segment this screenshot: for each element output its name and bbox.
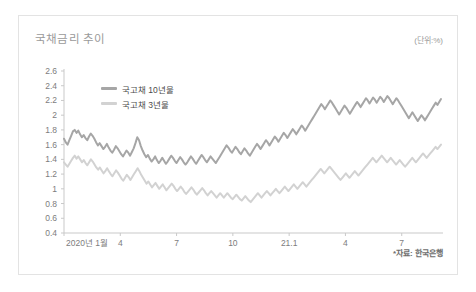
y-axis-tick-label: 2.4 xyxy=(45,81,57,91)
y-axis-tick-label: 2.6 xyxy=(45,66,57,76)
y-axis-tick-label: 0.6 xyxy=(45,213,57,223)
chart-legend: 국고채 10년물 국고채 3년물 xyxy=(101,83,174,109)
line-chart: 2.62.42.221.81.61.41.210.80.60.42020년 1월… xyxy=(19,16,459,276)
x-axis-tick-label: 21.1 xyxy=(281,238,298,248)
x-axis-tick-label: 7 xyxy=(174,238,179,248)
legend-item-10y: 국고채 10년물 xyxy=(101,83,174,94)
y-axis-tick-label: 0.8 xyxy=(45,199,57,209)
y-axis-tick-label: 1.8 xyxy=(45,125,57,135)
source-note: *자료: 한국은행 xyxy=(393,247,443,258)
legend-item-3y: 국고채 3년물 xyxy=(101,98,174,109)
y-axis-tick-label: 1.4 xyxy=(45,154,57,164)
y-axis-tick-label: 1 xyxy=(52,184,57,194)
legend-label-10y: 국고채 10년물 xyxy=(122,83,174,95)
y-axis-tick-label: 2.2 xyxy=(45,95,57,105)
chart-card: 국채금리 추이 (단위:%) 2.62.42.221.81.61.41.210.… xyxy=(18,15,458,275)
legend-swatch-10y xyxy=(101,87,117,90)
y-axis-tick-label: 2 xyxy=(52,110,57,120)
y-axis-tick-label: 1.2 xyxy=(45,169,57,179)
x-axis-tick-label: 10 xyxy=(228,238,238,248)
legend-label-3y: 국고채 3년물 xyxy=(122,98,169,110)
y-axis-tick-label: 1.6 xyxy=(45,140,57,150)
x-axis-tick-label: 4 xyxy=(118,238,123,248)
x-axis-tick-label: 2020년 1월 xyxy=(66,238,108,248)
x-axis-tick-label: 4 xyxy=(343,238,348,248)
plot-area: 2.62.42.221.81.61.41.210.80.60.42020년 1월… xyxy=(19,16,459,276)
screenshot-root: 국채금리 추이 (단위:%) 2.62.42.221.81.61.41.210.… xyxy=(0,0,476,292)
legend-swatch-3y xyxy=(101,102,117,105)
y-axis-tick-label: 0.4 xyxy=(45,228,57,238)
